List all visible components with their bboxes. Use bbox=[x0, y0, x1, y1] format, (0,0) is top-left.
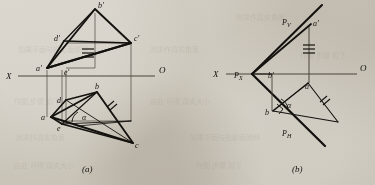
point-label-b-prime: b' bbox=[98, 1, 104, 10]
point-label-b-b: b bbox=[265, 108, 269, 117]
point-label-c-prime: c' bbox=[134, 34, 140, 43]
bleed-line: 由此 可得 真实大小 bbox=[14, 161, 74, 170]
technical-drawing-canvas: 如果平面与投影面倾斜 则求作真实角度 作图 步骤 如下 由此 可得 真实大小 则… bbox=[0, 0, 375, 185]
point-label-pv: PV bbox=[281, 18, 292, 28]
point-label-a-prime-b: a' bbox=[313, 19, 319, 28]
bleed-line: 作图 步骤 如下 bbox=[196, 161, 242, 170]
point-label-b-prime-b: b' bbox=[268, 71, 274, 80]
bleed-line: 作图 步骤 如下 bbox=[14, 97, 60, 106]
bleed-line: 如果平面与投影面倾斜 bbox=[18, 45, 88, 54]
axis-label-x-b: X bbox=[212, 69, 219, 79]
point-label-d: d bbox=[57, 96, 62, 105]
bleed-line: 则求作真实角度 bbox=[16, 133, 65, 142]
axis-label-x-a: X bbox=[5, 71, 12, 81]
double-tick-mark-b bbox=[320, 96, 330, 105]
bleed-line: 作图 步骤 如下 bbox=[300, 51, 346, 60]
panel-a-group: X O bbox=[5, 1, 166, 174]
bleed-line: 如果平面与投影面倾斜 bbox=[190, 133, 260, 142]
point-label-a-prime: a' bbox=[36, 64, 42, 73]
bleed-line: 则求作真实角度 bbox=[150, 45, 199, 54]
point-label-b: b bbox=[95, 82, 99, 91]
panel-b-group: X O bbox=[212, 5, 367, 174]
axis-label-o-a: O bbox=[159, 65, 166, 75]
angle-label-alpha-b: α bbox=[287, 101, 292, 110]
figure-root: 如果平面与投影面倾斜 则求作真实角度 作图 步骤 如下 由此 可得 真实大小 则… bbox=[0, 0, 375, 185]
caption-a: (a) bbox=[82, 164, 93, 174]
bleed-line: 则求作真实角度 bbox=[236, 13, 285, 22]
caption-b: (b) bbox=[292, 164, 303, 174]
construction-triangle-b bbox=[252, 24, 311, 74]
point-label-ph: PH bbox=[281, 129, 292, 139]
point-label-d-prime: d' bbox=[54, 34, 60, 43]
point-label-a-b: a bbox=[305, 82, 309, 91]
point-labels-b: PV a' PX b' a b PH α bbox=[233, 18, 319, 139]
axis-label-o-b: O bbox=[360, 63, 367, 73]
point-label-a: a bbox=[41, 113, 45, 122]
point-label-e-prime: e' bbox=[64, 68, 70, 77]
bleed-line: 由此 可得 真实大小 bbox=[150, 97, 210, 106]
point-label-e: e bbox=[57, 124, 61, 133]
point-label-c: c bbox=[135, 141, 139, 150]
point-label-px: PX bbox=[233, 71, 243, 81]
